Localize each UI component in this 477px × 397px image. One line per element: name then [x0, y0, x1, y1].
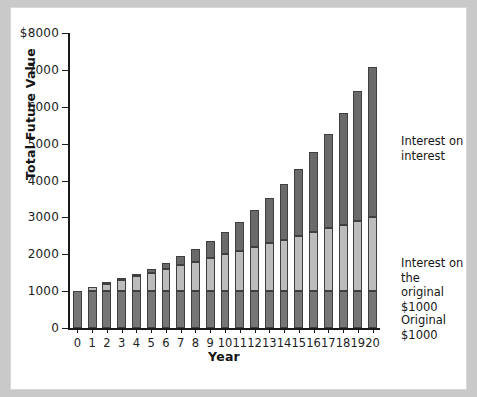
- bar-segment-principal: [147, 291, 156, 328]
- bar: [368, 80, 377, 328]
- x-tick-label: 2: [103, 336, 110, 350]
- bar-segment-compound: [265, 198, 274, 243]
- bar-segment-compound: [235, 222, 244, 251]
- chart-figure: Total Future Value Year 0100020003000400…: [11, 8, 466, 389]
- bar-segment-principal: [132, 291, 141, 328]
- y-tick: [62, 181, 68, 182]
- bar-segment-simple: [206, 258, 215, 291]
- x-tick-label: 3: [118, 336, 125, 350]
- bar-segment-simple: [280, 240, 289, 292]
- bar-segment-principal: [191, 291, 200, 328]
- bar-segment-compound: [147, 269, 156, 273]
- annotation-interest-on-original: Interest on the original $1000: [401, 256, 466, 314]
- x-tick-label: 15: [291, 336, 306, 350]
- bar: [221, 232, 230, 328]
- bar-segment-principal: [102, 291, 111, 328]
- y-tick: [62, 254, 68, 255]
- bar: [117, 279, 126, 328]
- bar: [147, 269, 156, 328]
- bar-segment-principal: [250, 291, 259, 328]
- bar-segment-simple: [368, 217, 377, 291]
- bar: [309, 159, 318, 328]
- bar-segment-compound: [368, 67, 377, 218]
- x-tick-label: 18: [336, 336, 351, 350]
- bar-segment-simple: [309, 232, 318, 291]
- bar-segment-compound: [250, 210, 259, 246]
- bar-segment-simple: [132, 276, 141, 291]
- bar: [102, 283, 111, 328]
- bar-segment-simple: [250, 247, 259, 291]
- y-tick: [62, 33, 68, 34]
- y-axis-line: [68, 33, 70, 328]
- x-tick: [181, 328, 182, 333]
- x-tick: [240, 328, 241, 333]
- bar: [294, 174, 303, 328]
- y-tick-label: 6000: [28, 100, 59, 114]
- bar-segment-simple: [294, 236, 303, 291]
- bar-segment-simple: [117, 280, 126, 291]
- bar-segment-compound: [280, 184, 289, 239]
- y-tick: [62, 291, 68, 292]
- bar-segment-principal: [339, 291, 348, 328]
- x-axis-line: [68, 328, 380, 330]
- y-tick-label: 5000: [28, 137, 59, 151]
- y-tick-label: 7000: [28, 63, 59, 77]
- annotation-interest-on-interest: Interest on interest: [401, 134, 463, 163]
- bar-segment-simple: [221, 254, 230, 291]
- bar-segment-compound: [206, 241, 215, 258]
- x-tick: [136, 328, 137, 333]
- y-tick-label: 1000: [28, 284, 59, 298]
- x-axis-title: Year: [68, 349, 380, 364]
- bar-segment-compound: [353, 91, 362, 221]
- bar-segment-compound: [191, 249, 200, 262]
- x-tick: [122, 328, 123, 333]
- y-tick: [62, 328, 68, 329]
- bar-segment-principal: [235, 291, 244, 328]
- x-tick-label: 16: [306, 336, 321, 350]
- x-tick-label: 19: [351, 336, 366, 350]
- x-tick-label: 13: [262, 336, 277, 350]
- bar-segment-principal: [73, 291, 82, 328]
- x-tick: [166, 328, 167, 333]
- bar-segment-principal: [309, 291, 318, 328]
- x-tick: [92, 328, 93, 333]
- bar-segment-compound: [162, 263, 171, 269]
- y-tick-label: 3000: [28, 210, 59, 224]
- x-tick: [107, 328, 108, 333]
- bar-segment-compound: [102, 282, 111, 284]
- x-tick: [373, 328, 374, 333]
- bar-segment-compound: [324, 134, 333, 229]
- bar: [88, 287, 97, 328]
- bar: [250, 212, 259, 328]
- bar-segment-principal: [353, 291, 362, 328]
- x-tick-label: 1: [88, 336, 95, 350]
- bar: [132, 274, 141, 328]
- bar: [353, 102, 362, 328]
- bar-segment-simple: [353, 221, 362, 291]
- bar-segment-simple: [191, 262, 200, 292]
- bar-segment-compound: [294, 169, 303, 236]
- bar-segment-simple: [339, 225, 348, 291]
- bar: [73, 291, 82, 328]
- x-tick: [255, 328, 256, 333]
- bar: [235, 223, 244, 328]
- bar-segment-principal: [265, 291, 274, 328]
- bar-segment-compound: [221, 232, 230, 255]
- bar: [265, 201, 274, 328]
- bar-segment-simple: [102, 284, 111, 291]
- x-tick: [343, 328, 344, 333]
- bar-segment-principal: [206, 291, 215, 328]
- y-tick-label: 2000: [28, 247, 59, 261]
- bar-segment-simple: [88, 287, 97, 291]
- bar-segment-principal: [221, 291, 230, 328]
- bar-segment-simple: [235, 251, 244, 292]
- x-tick-label: 0: [74, 336, 81, 350]
- annotation-original-principal: Original $1000: [401, 313, 446, 342]
- x-tick-label: 17: [321, 336, 336, 350]
- bar-segment-principal: [88, 291, 97, 328]
- bar-segment-principal: [324, 291, 333, 328]
- x-tick: [210, 328, 211, 333]
- bar-segment-principal: [176, 291, 185, 328]
- bar-segment-compound: [117, 278, 126, 280]
- x-tick-label: 8: [192, 336, 199, 350]
